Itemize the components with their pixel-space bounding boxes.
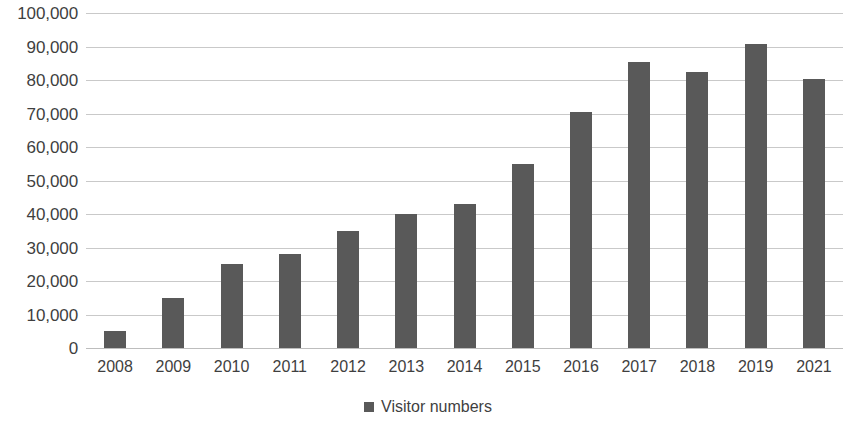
y-axis-tick-label: 100,000 (0, 5, 78, 22)
x-axis-tick-label: 2013 (377, 357, 435, 376)
bar-slot (261, 13, 319, 348)
x-axis-tick-label: 2016 (552, 357, 610, 376)
x-axis-tick-label: 2015 (494, 357, 552, 376)
y-axis-tick-label: 90,000 (0, 38, 78, 55)
bar-slot (435, 13, 493, 348)
bar-slot (727, 13, 785, 348)
bar[interactable] (512, 164, 534, 348)
visitor-numbers-bar-chart: 100,00090,00080,00070,00060,00050,00040,… (0, 0, 856, 421)
bar[interactable] (454, 204, 476, 348)
y-axis-tick-label: 70,000 (0, 105, 78, 122)
plot-area (86, 13, 843, 348)
bar-series-visitor-numbers (86, 13, 843, 348)
bar-slot (494, 13, 552, 348)
bar[interactable] (686, 72, 708, 348)
y-axis-tick-label: 50,000 (0, 172, 78, 189)
y-axis-tick-label: 40,000 (0, 206, 78, 223)
x-axis-tick-label: 2009 (144, 357, 202, 376)
x-axis: 2008200920102011201220132014201520162017… (86, 357, 843, 376)
bar-slot (785, 13, 843, 348)
chart-legend: Visitor numbers (0, 398, 856, 416)
bar-slot (610, 13, 668, 348)
bar-slot (552, 13, 610, 348)
bar-slot (144, 13, 202, 348)
bar[interactable] (745, 44, 767, 348)
bar[interactable] (221, 264, 243, 348)
x-axis-line (86, 348, 843, 349)
bar-slot (86, 13, 144, 348)
bar[interactable] (162, 298, 184, 348)
x-axis-tick-label: 2014 (435, 357, 493, 376)
bar[interactable] (570, 112, 592, 348)
y-axis: 100,00090,00080,00070,00060,00050,00040,… (0, 0, 78, 361)
y-axis-tick-label: 80,000 (0, 72, 78, 89)
bar-slot (202, 13, 260, 348)
y-axis-tick-label: 20,000 (0, 273, 78, 290)
bar[interactable] (803, 79, 825, 348)
bar-slot (319, 13, 377, 348)
square-marker-icon (364, 402, 374, 412)
bar[interactable] (279, 254, 301, 348)
x-axis-tick-label: 2021 (785, 357, 843, 376)
y-axis-tick-label: 60,000 (0, 139, 78, 156)
bar[interactable] (337, 231, 359, 348)
y-axis-tick-label: 10,000 (0, 306, 78, 323)
bar[interactable] (104, 331, 126, 348)
x-axis-tick-label: 2012 (319, 357, 377, 376)
x-axis-tick-label: 2011 (261, 357, 319, 376)
x-axis-tick-label: 2018 (668, 357, 726, 376)
x-axis-tick-label: 2010 (202, 357, 260, 376)
y-axis-tick-label: 30,000 (0, 239, 78, 256)
legend-item-label: Visitor numbers (381, 398, 492, 416)
x-axis-tick-label: 2017 (610, 357, 668, 376)
x-axis-tick-label: 2019 (727, 357, 785, 376)
x-axis-tick-label: 2008 (86, 357, 144, 376)
bar-slot (668, 13, 726, 348)
bar[interactable] (628, 62, 650, 348)
y-axis-tick-label: 0 (0, 340, 78, 357)
bar-slot (377, 13, 435, 348)
bar[interactable] (395, 214, 417, 348)
